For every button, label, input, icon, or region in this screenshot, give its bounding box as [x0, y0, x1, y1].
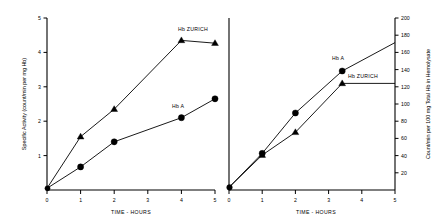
- right-y-ticklabel: 140: [401, 67, 410, 73]
- right-x-ticklabel: 1: [261, 197, 264, 203]
- left-chart-svg: 5 4 3 2 1 0 1 2 3 4 5: [0, 0, 221, 223]
- left-y-ticklabel: 1: [38, 153, 41, 159]
- left-y-ticklabel: 3: [38, 84, 41, 90]
- right-origin-marker: [227, 185, 233, 191]
- left-x-axis-title: TIME - HOURS: [111, 209, 151, 215]
- left-x-ticks: [47, 190, 215, 194]
- left-y-ticklabels: 5 4 3 2 1: [38, 15, 41, 159]
- left-y-ticklabel: 4: [38, 49, 41, 55]
- left-x-ticklabel: 3: [146, 197, 149, 203]
- right-x-ticklabel: 5: [394, 197, 397, 203]
- right-series-hb-zurich-curve: [229, 83, 395, 187]
- right-y-ticklabel: 60: [401, 135, 407, 141]
- left-y-axis-title: Specific Activity (count/min per mg Hb): [21, 58, 27, 150]
- right-x-ticklabels: 0 1 2 3 4 5: [228, 197, 397, 203]
- right-y-ticklabel: 40: [401, 153, 407, 159]
- left-x-ticklabel: 4: [180, 197, 183, 203]
- right-y-ticklabel: 180: [401, 32, 410, 38]
- left-series-label-hb-zurich: Hb ZURICH: [178, 26, 208, 32]
- left-series-hb-zurich-markers: [77, 37, 218, 139]
- right-series-label-hb-zurich: Hb ZURICH: [348, 73, 378, 79]
- left-series-hb-a-markers: [78, 96, 219, 170]
- left-series-hb-a-curve: [47, 99, 215, 189]
- right-x-axis-title: TIME - HOURS: [296, 209, 336, 215]
- left-y-ticklabel: 2: [38, 118, 41, 124]
- chart-panel-left: 5 4 3 2 1 0 1 2 3 4 5: [0, 0, 221, 223]
- left-x-ticklabel: 0: [46, 197, 49, 203]
- right-y-axis-title: Count/min per 100 mg Total Hb in Hemolys…: [425, 49, 431, 159]
- left-series-label-hb-a: Hb A: [172, 103, 185, 109]
- right-series-hb-a-markers: [259, 68, 345, 157]
- right-chart-svg: 200 180 160 140 120 100 80 60 40 20: [221, 0, 442, 223]
- right-series-hb-zurich-markers: [259, 80, 346, 157]
- figure-container: 5 4 3 2 1 0 1 2 3 4 5: [0, 0, 442, 223]
- left-x-ticklabels: 0 1 2 3 4 5: [46, 197, 217, 203]
- right-x-ticklabel: 0: [228, 197, 231, 203]
- right-x-ticks: [229, 190, 395, 194]
- left-x-ticklabel: 2: [113, 197, 116, 203]
- left-series-hb-zurich-curve: [47, 40, 215, 188]
- right-x-ticklabel: 2: [294, 197, 297, 203]
- left-origin-marker: [45, 186, 50, 191]
- right-y-ticklabel: 200: [401, 15, 410, 21]
- right-y-ticklabel: 160: [401, 49, 410, 55]
- left-x-ticklabel: 1: [79, 197, 82, 203]
- right-y-ticklabel: 100: [401, 101, 410, 107]
- right-y-ticklabel: 120: [401, 84, 410, 90]
- left-x-ticklabel: 5: [214, 197, 217, 203]
- right-series-label-hb-a: Hb A: [332, 55, 345, 61]
- left-y-ticklabel: 5: [38, 15, 41, 21]
- right-y-ticklabels: 200 180 160 140 120 100 80 60 40 20: [401, 15, 410, 176]
- right-y-ticklabel: 80: [401, 118, 407, 124]
- right-x-ticklabel: 4: [360, 197, 363, 203]
- right-x-ticklabel: 3: [327, 197, 330, 203]
- right-y-ticklabel: 20: [401, 170, 407, 176]
- chart-panel-right: 200 180 160 140 120 100 80 60 40 20: [221, 0, 442, 223]
